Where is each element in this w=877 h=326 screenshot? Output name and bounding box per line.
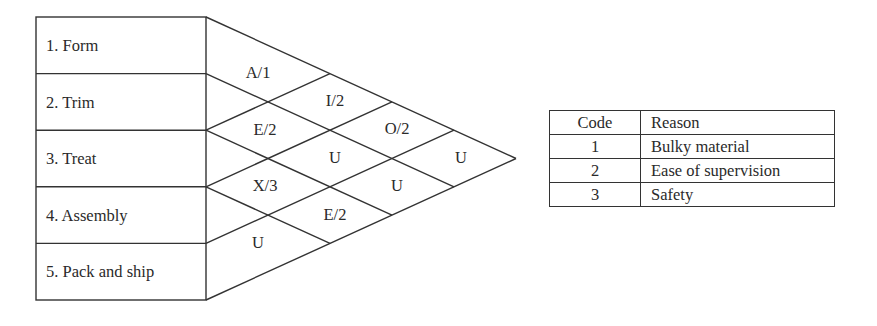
table-row: 3 Safety — [550, 183, 835, 207]
triangle-top-edge — [206, 17, 516, 159]
code-header: Code — [550, 111, 641, 135]
department-label: 5. Pack and ship — [46, 262, 154, 281]
reason-cell: Safety — [641, 183, 835, 207]
relationship-1-4: O/2 — [385, 119, 410, 138]
reason-code-table: Code Reason 1 Bulky material 2 Ease of s… — [549, 110, 835, 207]
department-label: 3. Treat — [46, 149, 97, 168]
code-cell: 2 — [550, 159, 641, 183]
relationship-1-2: A/1 — [246, 63, 271, 82]
relationship-3-4: X/3 — [253, 176, 278, 195]
relationship-1-5: U — [455, 148, 467, 167]
relationship-2-5: U — [391, 176, 403, 195]
relationship-1-3: I/2 — [326, 91, 344, 110]
relationship-2-3: E/2 — [254, 120, 277, 139]
table-header-row: Code Reason — [550, 111, 835, 135]
table-row: 1 Bulky material — [550, 135, 835, 159]
reason-cell: Ease of supervision — [641, 159, 835, 183]
table-row: 2 Ease of supervision — [550, 159, 835, 183]
reason-header: Reason — [641, 111, 835, 135]
code-cell: 1 — [550, 135, 641, 159]
relationship-4-5: U — [252, 233, 264, 252]
relationship-2-4: U — [329, 148, 341, 167]
reason-cell: Bulky material — [641, 135, 835, 159]
relationship-3-5: E/2 — [324, 205, 347, 224]
department-label: 2. Trim — [46, 93, 95, 112]
code-cell: 3 — [550, 183, 641, 207]
department-label: 1. Form — [46, 36, 98, 55]
department-label: 4. Assembly — [46, 206, 128, 225]
